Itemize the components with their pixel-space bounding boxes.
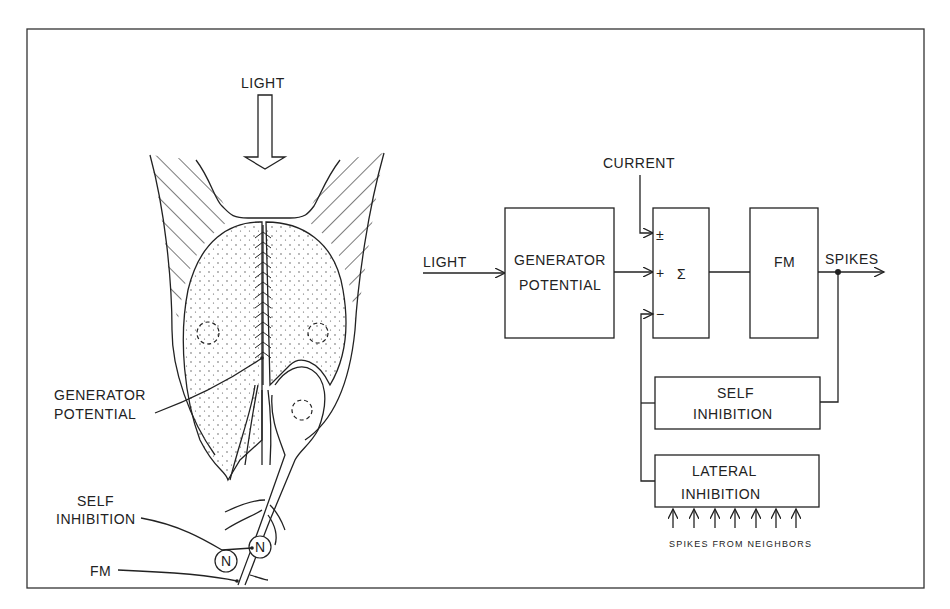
generator-potential-label-1: GENERATOR — [54, 387, 146, 403]
self-inhibition-label-2: INHIBITION — [56, 511, 136, 527]
anatomy-sketch: LIGHT — [54, 75, 384, 585]
sum-sign-generator: + — [656, 265, 665, 281]
sum-sign-current: ± — [656, 227, 664, 243]
fm-label-left: FM — [90, 563, 111, 579]
light-label-top: LIGHT — [241, 75, 285, 91]
retinular-cell-left — [183, 222, 262, 480]
diagram-canvas: LIGHT — [0, 0, 950, 609]
generator-potential-label-2: POTENTIAL — [54, 406, 136, 422]
light-arrow-icon — [245, 95, 285, 169]
lateral-inhibition-block-label-2: INHIBITION — [681, 486, 761, 502]
light-input-label: LIGHT — [423, 254, 467, 270]
node-n-right-label: N — [255, 539, 266, 555]
sum-symbol: Σ — [677, 266, 686, 282]
fm-block — [750, 208, 818, 338]
sum-sign-feedback: − — [656, 306, 665, 322]
lateral-inhibition-block-label-1: LATERAL — [692, 463, 757, 479]
spikes-output-label: SPIKES — [825, 251, 879, 267]
neighbor-spike-arrows — [673, 509, 796, 528]
generator-potential-block — [505, 208, 614, 338]
generator-block-label-1: GENERATOR — [514, 252, 606, 268]
spikes-from-neighbors-label: SPIKES FROM NEIGHBORS — [669, 539, 812, 549]
self-inhibition-block-label-2: INHIBITION — [693, 406, 773, 422]
self-inhibition-block-label-1: SELF — [717, 385, 754, 401]
node-n-left-label: N — [221, 553, 232, 569]
generator-block-label-2: POTENTIAL — [519, 277, 601, 293]
block-diagram: LIGHT GENERATOR POTENTIAL CURRENT ± + Σ … — [423, 155, 884, 549]
current-input-label: CURRENT — [603, 155, 675, 171]
fm-block-label: FM — [774, 254, 795, 270]
self-inhibition-label-1: SELF — [77, 493, 114, 509]
